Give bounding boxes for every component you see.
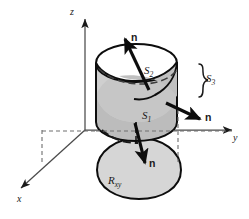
surface-label-s2: S2 bbox=[144, 65, 153, 79]
axis-label-z: z bbox=[70, 7, 74, 17]
surface-label-s3: S3 bbox=[206, 73, 215, 87]
surface-label-s1: S1 bbox=[142, 110, 151, 124]
normal-label-top: n bbox=[131, 32, 137, 43]
region-label-sub: xy bbox=[115, 180, 122, 189]
projected-region-rxy bbox=[97, 138, 181, 199]
figure-container: z y x n n n S2 S3 S1 Rxy bbox=[0, 0, 249, 219]
surface-label-s1-sub: 1 bbox=[148, 115, 152, 124]
axis-label-x: x bbox=[17, 194, 21, 204]
x-axis bbox=[21, 130, 85, 188]
surface-label-s2-sub: 2 bbox=[150, 70, 154, 79]
diagram-canvas bbox=[0, 0, 249, 219]
normal-label-side: n bbox=[205, 112, 211, 123]
region-label-rxy: Rxy bbox=[108, 175, 121, 189]
region-label-letter: R bbox=[108, 174, 115, 186]
normal-label-bottom: n bbox=[149, 158, 155, 169]
axis-label-y: y bbox=[233, 133, 237, 143]
surface-label-s3-sub: 3 bbox=[212, 78, 216, 87]
